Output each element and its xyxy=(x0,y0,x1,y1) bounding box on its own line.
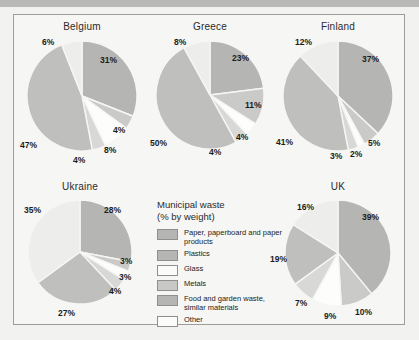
panel-title-uk: UK xyxy=(276,181,400,192)
slice-label: 11% xyxy=(245,100,262,110)
legend-item: Food and garden waste, similar materials xyxy=(157,294,285,312)
legend-swatch xyxy=(157,295,178,306)
slice-label: 8% xyxy=(104,145,116,155)
slice-label: 4% xyxy=(236,132,248,142)
legend-item: Glass xyxy=(157,264,285,276)
slice-label: 4% xyxy=(109,286,121,296)
slice-label: 37% xyxy=(362,54,379,64)
slice-label: 35% xyxy=(24,205,41,215)
slice-label: 50% xyxy=(150,138,167,148)
slice-label: 41% xyxy=(276,137,293,147)
legend-swatch xyxy=(157,280,178,291)
panel-title-ukraine: Ukraine xyxy=(18,181,142,192)
legend-swatch xyxy=(157,316,178,327)
slice-label: 39% xyxy=(362,212,379,222)
legend-title: Municipal waste (% by weight) xyxy=(157,199,285,223)
slice-label: 5% xyxy=(368,138,380,148)
slice-label: 8% xyxy=(174,37,186,47)
slice-label: 23% xyxy=(232,53,249,63)
slice-label: 7% xyxy=(295,298,307,308)
legend-item: Other xyxy=(157,315,285,327)
legend-item-label: Plastics xyxy=(184,249,210,259)
slice-label: 12% xyxy=(295,37,312,47)
legend-item-label: Paper, paperboard and paper products xyxy=(184,228,285,246)
legend: Municipal waste (% by weight) Paper, pap… xyxy=(157,199,285,330)
legend-item-label: Other xyxy=(184,315,203,325)
legend-item-label: Metals xyxy=(184,279,206,289)
panel-title-greece: Greece xyxy=(148,21,272,32)
figure-root: Belgium 6% 31% 4% 8% 4% 47% Greece 8% 23… xyxy=(0,0,419,340)
slice-label: 3% xyxy=(330,151,342,161)
slice-label: 4% xyxy=(73,155,85,165)
slice-label: 6% xyxy=(42,37,54,47)
slice-label: 27% xyxy=(58,308,75,318)
legend-swatch xyxy=(157,265,178,276)
slice-label: 47% xyxy=(20,140,37,150)
legend-item-label: Glass xyxy=(184,264,203,274)
legend-title-line2: (% by weight) xyxy=(157,211,285,223)
slice-label: 10% xyxy=(355,307,372,317)
pie-panel-greece: Greece 8% 23% 11% 4% 4% 50% xyxy=(148,21,272,161)
slice-label: 16% xyxy=(297,202,314,212)
pie-panel-finland: Finland 12% 37% 5% 2% 3% 41% xyxy=(276,21,400,161)
panel-title-finland: Finland xyxy=(276,21,400,32)
legend-swatch xyxy=(157,250,178,261)
legend-swatch xyxy=(157,229,178,240)
pie-panel-belgium: Belgium 6% 31% 4% 8% 4% 47% xyxy=(20,21,144,161)
legend-item: Paper, paperboard and paper products xyxy=(157,228,285,246)
slice-label: 3% xyxy=(120,256,132,266)
pie-slice xyxy=(210,41,264,95)
top-strip xyxy=(0,0,419,7)
legend-item-label: Food and garden waste, similar materials xyxy=(184,294,285,312)
slice-label: 31% xyxy=(100,55,117,65)
slice-label: 3% xyxy=(119,272,131,282)
slice-label: 4% xyxy=(209,147,221,157)
slice-label: 4% xyxy=(113,125,125,135)
slice-label: 28% xyxy=(104,205,121,215)
slice-label: 2% xyxy=(350,149,362,159)
panel-title-belgium: Belgium xyxy=(20,21,144,32)
chart-frame: Belgium 6% 31% 4% 8% 4% 47% Greece 8% 23… xyxy=(13,14,405,325)
slice-label: 9% xyxy=(324,311,336,321)
legend-item: Plastics xyxy=(157,249,285,261)
legend-item: Metals xyxy=(157,279,285,291)
legend-rows: Paper, paperboard and paper productsPlas… xyxy=(157,228,285,327)
pie-panel-ukraine: Ukraine 35% 28% 3% 3% 4% 27% xyxy=(18,181,142,321)
legend-title-line1: Municipal waste xyxy=(157,199,285,211)
pie-panel-uk: UK 16% 39% 10% 9% 7% 19% xyxy=(276,181,400,321)
